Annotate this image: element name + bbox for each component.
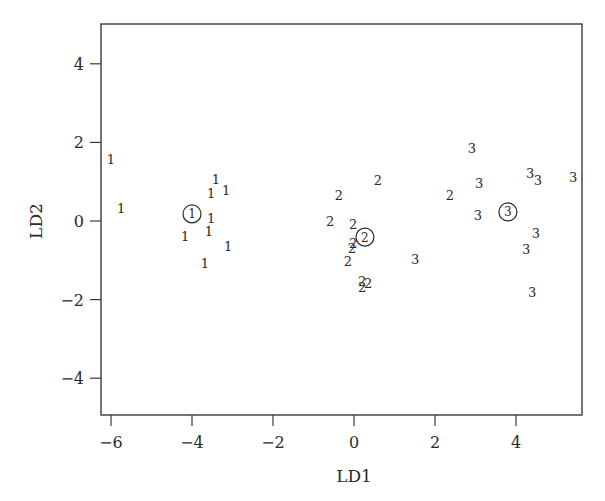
point-group-2: 2 [326,214,334,229]
point-group-3: 3 [528,285,536,300]
point-group-2: 2 [446,188,454,203]
centroid-group-2: 2 [356,228,374,246]
x-tick-label: −6 [99,433,123,452]
y-tick-label: −2 [60,291,84,310]
y-tick-label: 2 [74,133,84,152]
y-axis-title: LD2 [26,203,46,239]
x-tick-label: 2 [430,433,440,452]
point-group-1: 1 [207,186,215,201]
point-group-3: 3 [468,141,476,156]
point-group-1: 1 [212,172,220,187]
y-tick-label: −4 [60,369,84,388]
point-group-1: 1 [222,183,230,198]
point-group-3: 3 [522,242,530,257]
centroid-group-1: 1 [183,205,201,223]
y-axis: −4−2024 [60,55,101,388]
plot-frame [101,24,582,415]
point-group-1: 1 [107,152,115,167]
point-group-2: 2 [335,188,343,203]
point-group-2: 2 [349,217,357,232]
x-axis-title: LD1 [336,466,372,486]
point-group-3: 3 [569,170,577,185]
point-group-2: 2 [344,254,352,269]
centroid-label: 3 [504,205,512,219]
y-tick-label: 0 [74,212,84,231]
centroid-label: 1 [188,207,196,221]
point-group-3: 3 [534,173,542,188]
point-group-3: 3 [532,226,540,241]
point-group-2: 2 [358,280,366,295]
point-group-3: 3 [475,176,483,191]
point-group-1: 1 [224,239,232,254]
y-tick-label: 4 [74,55,84,74]
point-group-2: 2 [374,173,382,188]
point-group-1: 1 [201,256,209,271]
point-group-1: 1 [117,201,125,216]
x-tick-label: 4 [511,433,521,452]
lda-scatter-chart: −6−4−2024 −4−2024 LD1 LD2 11111111112222… [0,0,605,501]
point-group-3: 3 [474,208,482,223]
x-tick-label: −2 [261,433,285,452]
point-group-1: 1 [181,229,189,244]
centroid-label: 2 [361,231,369,245]
x-axis: −6−4−2024 [99,415,521,452]
centroid-group-3: 3 [499,203,517,221]
point-group-3: 3 [411,252,419,267]
x-tick-label: −4 [180,433,204,452]
point-group-1: 1 [205,224,213,239]
x-tick-label: 0 [349,433,359,452]
